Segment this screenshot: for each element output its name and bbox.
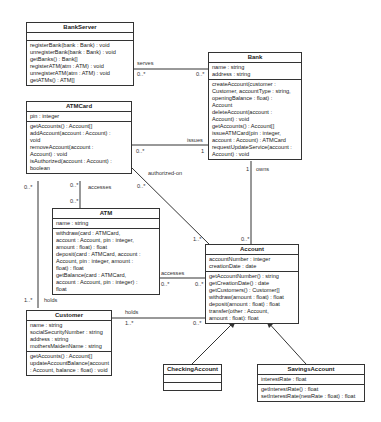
assoc-serves-label: serves [137, 60, 153, 66]
attribute: name : string [212, 64, 298, 71]
operation: Account, pin : integer, amount : [56, 258, 156, 265]
operation: getAccounts() : Account[] [30, 123, 128, 130]
assoc-card-accesses-label: accesses [88, 184, 111, 190]
operation: float) : float [56, 265, 156, 272]
assoc-account-holds-m1: 1..* [125, 320, 133, 326]
operation: deleteAccount(account : [212, 109, 298, 116]
operation: withdraw(card : ATMCard, [56, 230, 156, 237]
attributes-section: interestRate : float [258, 375, 364, 385]
attribute: pin : integer [30, 113, 128, 120]
operation: getAccounts() : Account[] [30, 353, 108, 360]
assoc-authorized-on-m2: 1..* [193, 236, 201, 242]
operation: addAccount(account : Account) : [30, 130, 128, 137]
operation: withdraw(amount : float) : float [209, 294, 295, 301]
class-name: Account [206, 245, 298, 255]
operation: issueATMCard(pin : integer, [212, 130, 298, 137]
operation: updateAccountBalance(account [30, 360, 108, 367]
operation: account : Account, pin : integer, [56, 237, 156, 244]
operation: deposit(card : ATMCard, account : [56, 251, 156, 258]
class-checkingaccount[interactable]: CheckingAccount [163, 364, 222, 391]
operation: unregisterATM(atm : ATM) : void [30, 70, 130, 77]
assoc-authorized-on-label: authorized-on [148, 170, 182, 176]
operations-section: getAccountNumber() : string getCreationD… [206, 272, 298, 323]
assoc-owns-m2: 0..* [241, 236, 249, 242]
operation: amount : float): float [209, 315, 295, 322]
assoc-issues-m1: 0..* [136, 148, 144, 154]
class-name: Bank [209, 53, 301, 63]
operation: Account) : void [30, 151, 128, 158]
class-name: BankServer [27, 23, 133, 33]
operation: Account [212, 102, 298, 109]
operations-section: getAccounts() : Account[] updateAccountB… [27, 352, 111, 375]
attribute: name : string [30, 322, 108, 329]
assoc-owns-label: owns [256, 166, 269, 172]
class-atm[interactable]: ATM name : string withdraw(card : ATMCar… [52, 208, 160, 295]
operations-section: getInterestRate() : float setInterestRat… [258, 385, 364, 401]
assoc-account-holds-m2: 0..* [193, 320, 201, 326]
attributes-section: name : string address : string [209, 63, 301, 80]
attribute: mothersMaidenName : string [30, 343, 108, 350]
class-atmcard[interactable]: ATMCard pin : integer getAccounts() : Ac… [26, 101, 132, 174]
operation: getAccounts() : Account[] [212, 123, 298, 130]
operation: transfer(other : Account, [209, 308, 295, 315]
class-name: Customer [27, 311, 111, 321]
operation: registerBank(bank : Bank) : void [30, 42, 130, 49]
operations-section: withdraw(card : ATMCard, account : Accou… [53, 229, 159, 294]
operation: amount : float) : float [56, 244, 156, 251]
operation: getCustomers() : Customer[] [209, 287, 295, 294]
class-bank[interactable]: Bank name : string address : string crea… [208, 52, 302, 160]
attributes-section [164, 375, 221, 383]
operation: boolean [30, 165, 128, 172]
operation: getBanks() : Bank[] [30, 56, 130, 63]
attributes-section: name : string [53, 219, 159, 229]
assoc-atm-accesses-label: accesses [161, 270, 184, 276]
attributes-section [27, 33, 133, 41]
operation: createAccount(customer : [212, 81, 298, 88]
operation: getInterestRate() : float [261, 386, 361, 393]
assoc-card-holds-m2: 1..* [24, 297, 32, 303]
operations-section: getAccounts() : Account[] addAccount(acc… [27, 122, 131, 173]
operation: : Account, balance : float) : void [30, 367, 108, 374]
operation: Customer, accountType : string, [212, 88, 298, 95]
operation: float [56, 286, 156, 293]
operation: openingBalance : float) : [212, 95, 298, 102]
operation: account : Account) : ATMCard [212, 137, 298, 144]
operation: getCreationDate() : date [209, 280, 295, 287]
operations-section [164, 383, 221, 390]
class-name: SavingsAccount [258, 365, 364, 375]
assoc-serves-m2: 0..* [196, 71, 204, 77]
operation: Account) : void [212, 116, 298, 123]
attribute: creationDate : date [209, 263, 295, 270]
operations-section: registerBank(bank : Bank) : void unregis… [27, 41, 133, 85]
attribute: name : string [56, 220, 156, 227]
attribute: address : string [212, 71, 298, 78]
assoc-card-accesses-m1: 0..* [70, 182, 78, 188]
attributes-section: name : string socialSecurityNumber : str… [27, 321, 111, 352]
attribute: accountNumber : integer [209, 256, 295, 263]
assoc-issues-m2: 1 [201, 148, 204, 154]
attribute: socialSecurityNumber : string [30, 329, 108, 336]
assoc-serves-m1: 0..* [137, 71, 145, 77]
operation: deposit(amount : float) : float [209, 301, 295, 308]
attributes-section: pin : integer [27, 112, 131, 122]
operation: account : Account, pin : integer) : [56, 279, 156, 286]
class-customer[interactable]: Customer name : string socialSecurityNum… [26, 310, 112, 376]
operation: registerATM(atm : ATM) : void [30, 63, 130, 70]
assoc-issues-label: issues [187, 137, 203, 143]
class-bankserver[interactable]: BankServer registerBank(bank : Bank) : v… [26, 22, 134, 86]
class-name: CheckingAccount [164, 365, 221, 375]
operation: unregisterBank(bank : Bank) : void [30, 49, 130, 56]
class-name: ATMCard [27, 102, 131, 112]
assoc-card-holds-label: holds [44, 297, 57, 303]
operation: removeAccount(account : [30, 144, 128, 151]
assoc-atm-accesses-m1: 0..* [161, 281, 169, 287]
assoc-authorized-on-m1: 0..* [137, 183, 145, 189]
attribute: address : string [30, 336, 108, 343]
class-savingsaccount[interactable]: SavingsAccount interestRate : float getI… [257, 364, 365, 402]
operation: setInterestRate(newRate : float) : float [261, 393, 361, 400]
class-account[interactable]: Account accountNumber : integer creation… [205, 244, 299, 324]
class-name: ATM [53, 209, 159, 219]
assoc-account-holds-label: holds [125, 309, 138, 315]
operation: getBalance(card : ATMCard, [56, 272, 156, 279]
assoc-owns-m1: 1 [246, 166, 249, 172]
